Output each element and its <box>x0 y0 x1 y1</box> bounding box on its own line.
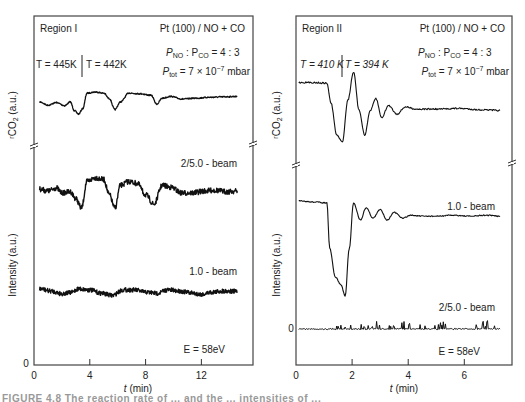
y-zero-label: 0 <box>23 358 29 369</box>
svg-text:12: 12 <box>196 370 208 381</box>
figure-caption: FIGURE 4.8 The reaction rate of ... and … <box>2 393 321 402</box>
pressure-ratio-label: PNO : PCO = 4 : 3 <box>418 47 492 59</box>
y-zero-label: 0 <box>288 323 294 334</box>
svg-text:0: 0 <box>293 370 299 381</box>
figure: Region I Pt (100) / NO + CO PNO : PCO = … <box>0 0 525 402</box>
svg-text:4: 4 <box>87 370 93 381</box>
beam-label-2-5: 2/5.0 - beam <box>181 158 237 169</box>
y-axis-label-intensity: Intensity (a.u.) <box>7 233 18 296</box>
svg-text:6: 6 <box>462 370 468 381</box>
svg-text:8: 8 <box>143 370 149 381</box>
beam-label-1-0: 1.0 - beam <box>189 266 237 277</box>
region-label: Region I <box>40 23 77 34</box>
system-label: Pt (100) / NO + CO <box>420 23 506 34</box>
y-axis-label-intensity: Intensity (a.u.) <box>271 233 282 296</box>
x-axis-ticks: 0246 <box>293 359 467 381</box>
temperature-after: T = 394 K <box>345 59 390 70</box>
temperature-after: T = 442K <box>86 59 127 70</box>
y-axis-label-rco2: ʳCO2 (a.u.) <box>7 91 19 138</box>
trace-beam-1-0 <box>40 287 238 297</box>
temperature-before: T = 410 K <box>300 59 345 70</box>
svg-text:2: 2 <box>349 370 355 381</box>
system-label: Pt (100) / NO + CO <box>160 23 246 34</box>
left-panel: Region I Pt (100) / NO + CO PNO : PCO = … <box>7 16 257 394</box>
right-panel: Region II Pt (100) / NO + CO PNO : PCO =… <box>271 16 516 394</box>
svg-text:4: 4 <box>405 370 411 381</box>
total-pressure-label: Ptot = 7 × 10−7 mbar <box>163 65 251 78</box>
trace-beam-2-5 <box>299 321 500 330</box>
trace-beam-1-0 <box>299 201 500 297</box>
total-pressure-label: Ptot = 7 × 10−7 mbar <box>422 65 510 78</box>
energy-label: E = 58eV <box>439 346 481 357</box>
trace-beam-2-5 <box>40 177 238 210</box>
axis-break-icon <box>292 160 516 168</box>
energy-label: E = 58eV <box>184 344 226 355</box>
beam-label-1-0: 1.0 - beam <box>447 201 495 212</box>
x-axis-ticks: 04812 <box>31 359 207 381</box>
region-label: Region II <box>302 23 342 34</box>
x-axis-label: t (min) <box>390 383 418 394</box>
beam-label-2-5: 2/5.0 - beam <box>439 302 495 313</box>
pressure-ratio-label: PNO : PCO = 4 : 3 <box>166 47 240 59</box>
axis-break-icon <box>30 141 257 149</box>
svg-text:0: 0 <box>31 370 37 381</box>
y-axis-label-rco2: ʳCO2 (a.u.) <box>271 91 283 138</box>
trace-rco2 <box>40 92 238 115</box>
temperature-before: T = 445K <box>36 59 77 70</box>
trace-rco2 <box>299 73 500 142</box>
